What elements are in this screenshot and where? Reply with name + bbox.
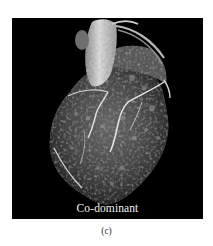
heart-ct-render-image (12, 18, 203, 219)
figure-panel: Co-dominant (12, 18, 203, 219)
right-atrial-appendage (75, 30, 89, 50)
pulmonary-vessel (112, 21, 138, 24)
panel-label: Co-dominant (12, 202, 203, 214)
figure-caption: (c) (0, 226, 213, 236)
heart-ventricles (50, 62, 169, 205)
vessel-branch (164, 80, 170, 98)
